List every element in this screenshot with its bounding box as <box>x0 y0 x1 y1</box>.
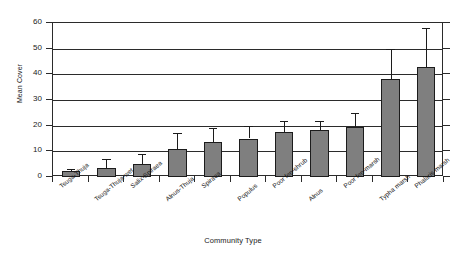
error-bar-cap <box>209 128 218 129</box>
gridline <box>53 49 442 50</box>
x-axis-tick <box>230 176 231 182</box>
y-axis-tick-label: 50 <box>20 44 42 52</box>
bar <box>417 67 435 177</box>
error-bar-cap <box>280 121 289 122</box>
y-axis-title: Mean Cover <box>16 39 23 129</box>
error-bar-line <box>426 28 427 67</box>
y-axis-tick-label: 10 <box>20 146 42 154</box>
x-axis-tick <box>372 176 373 182</box>
x-axis-title: Community Type <box>0 236 466 245</box>
bar <box>310 130 328 177</box>
bar <box>97 168 115 177</box>
error-bar-line <box>320 121 321 130</box>
error-bar-line <box>284 121 285 133</box>
x-axis-tick <box>88 176 89 182</box>
x-axis-tick <box>301 176 302 182</box>
error-bar-line <box>177 133 178 148</box>
x-axis-tick <box>159 176 160 182</box>
category-label: Alnus <box>307 187 324 203</box>
y-axis-tick-right <box>443 99 450 100</box>
error-bar-cap <box>386 49 395 50</box>
plot-area <box>52 22 443 176</box>
y-axis-tick-label: 0 <box>20 172 42 180</box>
x-axis-tick <box>443 176 444 182</box>
category-label: Populus <box>236 182 258 202</box>
y-axis-tick-right <box>443 150 450 151</box>
bar <box>381 79 399 177</box>
error-bar-cap <box>102 159 111 160</box>
error-bar-line <box>213 128 214 142</box>
error-bar-cap <box>244 126 253 127</box>
x-axis-tick <box>336 176 337 182</box>
error-bar-cap <box>315 121 324 122</box>
y-axis-tick-right <box>443 48 450 49</box>
gridline <box>53 74 442 75</box>
category-label: Alnus-Thuja <box>164 175 195 203</box>
category-label: Typha marsh <box>378 173 411 202</box>
x-axis-tick <box>265 176 266 182</box>
y-axis-tick-right <box>443 176 450 177</box>
bar-chart: Mean Cover 0102030405060 Tsuga-ThujaTsug… <box>0 0 466 255</box>
y-axis-tick-label: 40 <box>20 69 42 77</box>
bar <box>168 149 186 177</box>
error-bar-cap <box>351 113 360 114</box>
y-axis-tick-right <box>443 73 450 74</box>
error-bar-cap <box>138 154 147 155</box>
error-bar-line <box>355 113 356 127</box>
y-axis-tick-label: 60 <box>20 18 42 26</box>
y-axis-tick-right <box>443 125 450 126</box>
bar <box>239 139 257 178</box>
y-axis-tick-label: 30 <box>20 95 42 103</box>
x-axis-tick <box>52 176 53 182</box>
error-bar-line <box>391 49 392 80</box>
error-bar-line <box>249 126 250 139</box>
error-bar-line <box>106 159 107 168</box>
error-bar-line <box>142 154 143 164</box>
error-bar-cap <box>422 28 431 29</box>
error-bar-cap <box>173 133 182 134</box>
y-axis-tick-right <box>443 22 450 23</box>
y-axis-tick-label: 20 <box>20 121 42 129</box>
